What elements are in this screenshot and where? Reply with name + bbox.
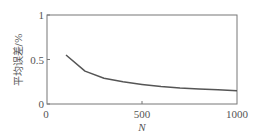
x-tick-label-0: 0 xyxy=(43,108,49,120)
plot-frame xyxy=(47,15,237,104)
x-axis-label: N xyxy=(137,121,146,133)
line-chart: 0 0.5 1 平均误差/% 0 500 1000 N xyxy=(0,0,260,138)
y-tick-label-1: 1 xyxy=(39,9,45,21)
x-tick-label-500: 500 xyxy=(134,108,151,120)
y-tick-label-0.5: 0.5 xyxy=(30,54,44,66)
x-tick-label-1000: 1000 xyxy=(226,108,249,120)
error-curve xyxy=(66,55,237,91)
y-axis: 0 0.5 1 平均误差/% xyxy=(12,9,50,110)
y-axis-label: 平均误差/% xyxy=(12,34,24,87)
x-axis: 0 500 1000 N xyxy=(43,101,248,133)
